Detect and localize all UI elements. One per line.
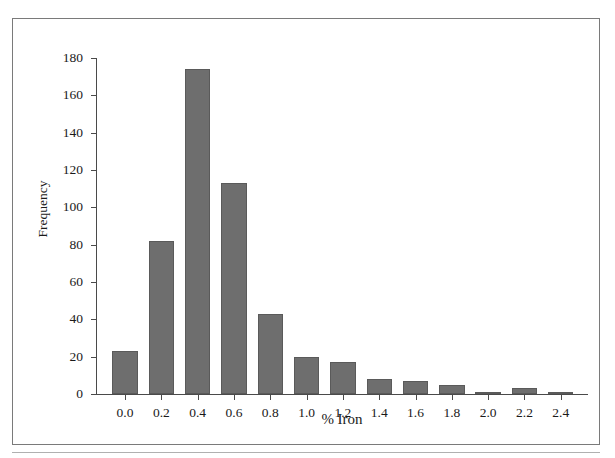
bar-0.8: [258, 314, 283, 394]
x-tick-0.4: [198, 394, 199, 400]
x-tick-2.2: [524, 394, 525, 400]
bar-0.4: [185, 69, 210, 394]
y-axis-line: [96, 58, 97, 394]
x-tick-1.2: [343, 394, 344, 400]
bar-1.6: [403, 381, 428, 394]
y-tick-140: [91, 133, 97, 134]
x-tick-1.8: [452, 394, 453, 400]
y-tick-0: [91, 394, 97, 395]
bar-2.4: [548, 392, 573, 394]
bar-0.0: [112, 351, 137, 394]
x-tick-1.4: [379, 394, 380, 400]
figure-frame: Frequency 020406080100120140160180 0.00.…: [12, 18, 600, 445]
y-tick-label-160: 160: [63, 89, 83, 103]
y-tick-120: [91, 170, 97, 171]
y-tick-180: [91, 58, 97, 59]
y-tick-label-20: 20: [70, 350, 84, 364]
y-tick-label-80: 80: [70, 238, 84, 252]
plot-area: 020406080100120140160180 0.00.20.40.60.8…: [96, 58, 588, 432]
x-tick-0.2: [161, 394, 162, 400]
x-axis-title: % Iron: [96, 411, 588, 428]
y-tick-100: [91, 207, 97, 208]
x-tick-1.0: [307, 394, 308, 400]
y-tick-label-180: 180: [63, 51, 83, 65]
bar-1.0: [294, 357, 319, 394]
x-tick-1.6: [416, 394, 417, 400]
bar-1.4: [367, 379, 392, 394]
y-tick-80: [91, 245, 97, 246]
y-tick-label-120: 120: [63, 163, 83, 177]
y-tick-label-60: 60: [70, 275, 84, 289]
y-tick-label-0: 0: [76, 387, 83, 401]
y-tick-160: [91, 95, 97, 96]
x-tick-2.0: [488, 394, 489, 400]
y-tick-40: [91, 319, 97, 320]
bar-1.2: [330, 362, 355, 394]
y-tick-label-140: 140: [63, 126, 83, 140]
y-axis-title: Frequency: [35, 181, 51, 238]
x-tick-0.0: [125, 394, 126, 400]
x-tick-0.8: [270, 394, 271, 400]
x-tick-2.4: [561, 394, 562, 400]
y-tick-label-100: 100: [63, 201, 83, 215]
bar-2.0: [475, 392, 500, 394]
x-tick-0.6: [234, 394, 235, 400]
y-tick-20: [91, 357, 97, 358]
y-tick-label-40: 40: [70, 313, 84, 327]
y-tick-60: [91, 282, 97, 283]
bar-1.8: [439, 385, 464, 394]
bar-0.6: [221, 183, 246, 394]
bar-2.2: [512, 388, 537, 394]
bar-0.2: [149, 241, 174, 394]
page-divider: [12, 452, 600, 453]
